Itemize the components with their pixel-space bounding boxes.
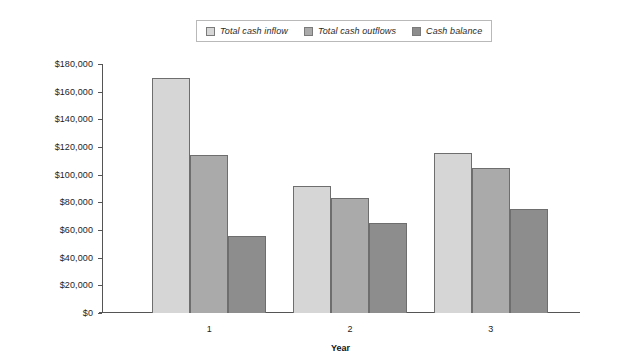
bar [152,78,190,313]
legend-item-total-cash-inflow: Total cash inflow [206,26,288,36]
y-axis-tick-label: $100,000 [55,170,93,180]
bar [369,223,407,313]
bar [228,236,266,313]
plot-area: $0$20,000$40,000$60,000$80,000$100,000$1… [102,64,579,313]
y-axis-tick [98,119,102,120]
y-axis-tick [98,147,102,148]
x-axis-tick-label: 1 [207,324,212,334]
bar-group-year-1: 1 [152,78,266,313]
y-axis-tick [98,258,102,259]
bar [190,155,228,313]
bar [331,198,369,313]
bar-group-year-3: 3 [434,153,548,313]
y-axis-tick [98,285,102,286]
legend-item-total-cash-outflows: Total cash outflows [304,26,396,36]
square-swatch-icon [206,27,215,36]
chart-container: Total cash inflow Total cash outflows Ca… [0,0,618,364]
bar [472,168,510,313]
legend-label: Total cash inflow [220,26,288,36]
y-axis-tick-label: $0 [83,308,93,318]
x-axis-tick-label: 3 [488,324,493,334]
chart-legend: Total cash inflow Total cash outflows Ca… [196,20,492,42]
legend-label: Cash balance [426,26,482,36]
y-axis-tick-label: $140,000 [55,114,93,124]
y-axis-tick-label: $120,000 [55,142,93,152]
y-axis-tick [98,230,102,231]
y-axis-tick [98,313,102,314]
square-swatch-icon [412,27,421,36]
square-swatch-icon [304,27,313,36]
y-axis-tick-label: $80,000 [60,197,93,207]
x-axis-tick-label: 2 [348,324,353,334]
y-axis-tick-label: $180,000 [55,59,93,69]
bar [293,186,331,313]
y-axis-line [102,64,103,313]
legend-item-cash-balance: Cash balance [412,26,482,36]
y-axis-tick [98,64,102,65]
y-axis-tick-label: $20,000 [60,280,93,290]
bar [510,209,548,313]
y-axis-tick-label: $160,000 [55,87,93,97]
y-axis-tick [98,92,102,93]
y-axis-tick [98,175,102,176]
x-axis-title: Year [331,343,350,353]
y-axis-tick-label: $40,000 [60,253,93,263]
y-axis-tick [98,202,102,203]
bar [434,153,472,313]
legend-label: Total cash outflows [318,26,396,36]
y-axis-tick-label: $60,000 [60,225,93,235]
bar-group-year-2: 2 [293,186,407,313]
